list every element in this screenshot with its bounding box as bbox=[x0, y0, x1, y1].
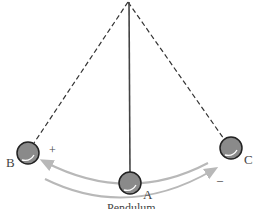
label-b: B bbox=[6, 156, 15, 169]
caption: Pendulum bbox=[107, 202, 156, 209]
string-to-b bbox=[34, 2, 128, 143]
ball-c bbox=[220, 137, 242, 159]
sign-minus: – bbox=[217, 174, 223, 186]
label-c: C bbox=[244, 153, 253, 166]
sign-plus: + bbox=[49, 144, 56, 156]
string-to-a bbox=[129, 2, 130, 172]
label-a: A bbox=[143, 188, 152, 201]
ball-b bbox=[17, 142, 39, 164]
string-to-c bbox=[128, 2, 224, 139]
ball-a bbox=[119, 172, 141, 194]
